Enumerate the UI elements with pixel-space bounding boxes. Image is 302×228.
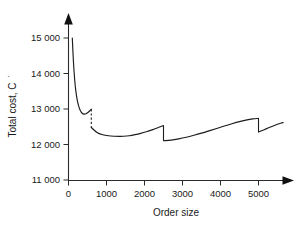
- x-tick-label-3000: 3000: [172, 188, 193, 199]
- x-axis-title: Order size: [153, 207, 200, 218]
- cost-vs-order-size-chart: 11 000 12 000 13 000 14 000 15 000 0 100…: [0, 0, 302, 228]
- x-tick-label-2000: 2000: [134, 188, 155, 199]
- y-tick-label-14000: 14 000: [31, 68, 60, 79]
- y-tick-label-11000: 11 000: [32, 174, 60, 185]
- x-tick-label-1000: 1000: [96, 188, 117, 199]
- chart-container: 11 000 12 000 13 000 14 000 15 000 0 100…: [0, 0, 302, 228]
- x-tick-label-4000: 4000: [210, 188, 231, 199]
- x-tick-label-0: 0: [66, 188, 71, 199]
- svg-text:Order size: Order size: [153, 207, 200, 218]
- svg-text:Total cost, C: Total cost, C: [7, 82, 18, 137]
- y-tick-label-12000: 12 000: [31, 139, 60, 150]
- x-tick-label-5000: 5000: [248, 188, 269, 199]
- y-tick-label-15000: 15 000: [31, 32, 60, 43]
- y-axis-title: Total cost, C ′: [6, 75, 19, 138]
- y-tick-label-13000: 13 000: [31, 103, 60, 114]
